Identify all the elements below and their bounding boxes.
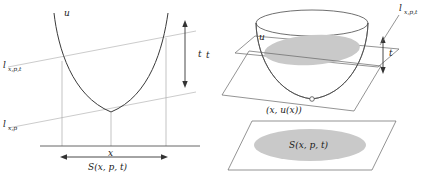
left-panel-2d: u l x,p,t l x,p t x S(x, p, t) <box>3 8 202 172</box>
right-height-label: t <box>389 48 393 58</box>
right-axis-t-label: t <box>206 50 210 60</box>
right-surface-label: u <box>259 32 265 42</box>
parabola-curve <box>54 13 168 112</box>
left-lower-line-label: l x,p <box>3 119 17 132</box>
upper-support-line <box>8 31 196 67</box>
svg-text:l: l <box>3 119 6 129</box>
svg-text:x,p: x,p <box>8 124 17 132</box>
svg-text:l: l <box>399 3 402 13</box>
right-upper-plane-label: l x,p,t <box>399 3 418 16</box>
x-axis-point-label: x <box>108 148 113 158</box>
right-height-double-arrow <box>380 36 385 74</box>
height-double-arrow <box>182 20 187 88</box>
svg-text:x,p,t: x,p,t <box>8 65 22 73</box>
left-upper-line-label: l x,p,t <box>3 60 22 73</box>
upper-plane-leader-line <box>380 15 399 45</box>
interval-double-arrow <box>60 154 168 159</box>
svg-text:x,p,t: x,p,t <box>404 8 418 16</box>
svg-text:l: l <box>3 60 6 70</box>
contact-point-marker <box>310 97 315 102</box>
right-panel-3d: t u l x,p,t t (x, u(x)) S(x, p, t) <box>206 3 418 170</box>
left-height-label: t <box>198 49 202 59</box>
upper-shaded-section <box>263 32 361 69</box>
contact-point-label: (x, u(x)) <box>266 105 302 115</box>
lower-support-line <box>8 92 196 128</box>
base-region-label: S(x, p, t) <box>289 140 329 150</box>
interval-label: S(x, p, t) <box>88 162 128 172</box>
left-curve-label: u <box>64 8 70 18</box>
paraboloid-rim <box>256 10 368 36</box>
mathematical-figure: u l x,p,t l x,p t x S(x, p, t) <box>0 0 421 175</box>
